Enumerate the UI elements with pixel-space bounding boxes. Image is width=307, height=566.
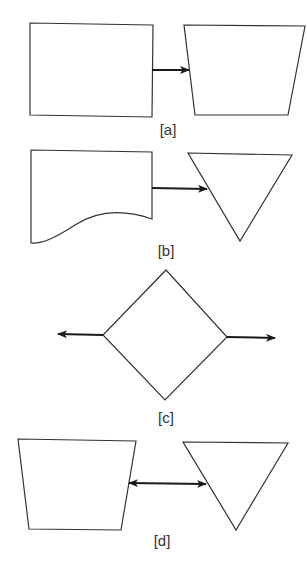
panel-a <box>30 23 305 117</box>
panel-d <box>18 439 288 530</box>
arrow-left <box>58 334 103 335</box>
panel-d-label: [d] <box>154 532 171 549</box>
panel-b-label: [b] <box>158 242 175 259</box>
panel-c-label: [c] <box>158 409 174 426</box>
diamond-shape <box>103 270 227 400</box>
inverted-triangle-shape <box>188 153 292 241</box>
rectangle-shape <box>30 23 153 117</box>
inverted-triangle-shape <box>183 442 288 530</box>
arrow-right <box>152 188 207 189</box>
panel-b <box>31 150 292 243</box>
double-arrow <box>129 483 206 484</box>
trapezoid-shape <box>18 439 136 530</box>
trapezoid-shape <box>184 25 305 115</box>
flowchart-diagram <box>0 0 307 566</box>
arrow-right <box>227 337 275 338</box>
panel-a-label: [a] <box>160 121 177 138</box>
panel-c <box>58 270 275 400</box>
document-shape <box>31 150 152 243</box>
